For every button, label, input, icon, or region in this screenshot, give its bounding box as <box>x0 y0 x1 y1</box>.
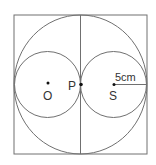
label-S: S <box>109 89 117 103</box>
label-radius: 5cm <box>115 71 136 83</box>
point-O <box>47 82 50 85</box>
point-P <box>79 83 83 87</box>
point-S <box>113 83 116 86</box>
geometry-diagram: O P S 5cm <box>0 0 156 165</box>
label-O: O <box>43 89 52 103</box>
label-P: P <box>68 79 76 93</box>
